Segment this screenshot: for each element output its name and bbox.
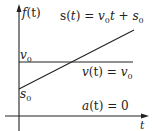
position-equation-label: s(t) = v0t + s0 bbox=[60, 9, 144, 25]
y-axis-arrow-icon bbox=[17, 4, 22, 12]
v0-tick-label: v0 bbox=[20, 48, 32, 64]
s0-tick-label: s0 bbox=[20, 87, 31, 103]
velocity-equation-label: v(t) = v0 bbox=[82, 65, 133, 81]
y-axis-label: f(t) bbox=[21, 6, 41, 20]
x-axis-label: t bbox=[140, 119, 145, 131]
position-line bbox=[19, 30, 134, 89]
kinematics-chart: f(t) s(t) = v0t + s0 v0 v(t) = v0 s0 a(t… bbox=[0, 0, 152, 131]
x-axis-arrow-icon bbox=[141, 114, 149, 119]
chart-svg: f(t) s(t) = v0t + s0 v0 v(t) = v0 s0 a(t… bbox=[0, 0, 152, 131]
acceleration-equation-label: a(t) = 0 bbox=[82, 99, 129, 113]
